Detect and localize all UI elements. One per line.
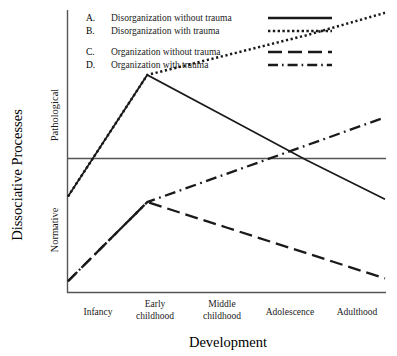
x-tick-label-adolescence: Adolescence — [266, 307, 315, 317]
legend: A. Disorganization without trauma B. Dis… — [86, 13, 332, 70]
y-axis-title: Dissociative Processes — [9, 109, 25, 241]
x-tick-label-middle-childhood: Middle — [208, 299, 235, 309]
dissociative-processes-line-chart: A. Disorganization without trauma B. Dis… — [0, 0, 397, 356]
y-region-label-pathological: Pathological — [49, 89, 60, 142]
legend-key-b: B. — [86, 26, 95, 36]
x-tick-labels: Infancy Early childhood Middle childhood… — [83, 299, 377, 321]
series-c-organization-without-trauma — [68, 202, 385, 281]
y-region-label-normative: Normative — [49, 207, 60, 252]
x-tick-label-early-childhood: Early — [145, 299, 166, 309]
x-tick-label-infancy: Infancy — [83, 307, 112, 317]
series-d-organization-with-trauma — [68, 117, 385, 281]
legend-label-d: Organization with trauma — [111, 60, 209, 70]
series-a-disorganization-without-trauma — [68, 75, 385, 199]
x-tick-label-early-childhood-line2: childhood — [136, 311, 174, 321]
series-b-disorganization-with-trauma — [68, 13, 385, 197]
legend-label-b: Disorganization with trauma — [111, 26, 220, 36]
legend-key-c: C. — [86, 47, 95, 57]
legend-label-c: Organization without trauma — [111, 47, 221, 57]
x-tick-label-middle-childhood-line2: childhood — [203, 311, 241, 321]
x-tick-label-adulthood: Adulthood — [337, 307, 378, 317]
chart-figure: A. Disorganization without trauma B. Dis… — [0, 0, 397, 356]
legend-key-d: D. — [86, 60, 95, 70]
legend-label-a: Disorganization without trauma — [111, 13, 232, 23]
x-axis-title: Development — [189, 334, 267, 350]
legend-key-a: A. — [86, 13, 95, 23]
